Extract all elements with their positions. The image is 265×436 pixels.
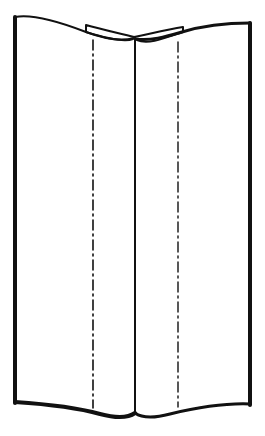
bottom-edge-right xyxy=(135,404,250,417)
bottom-edge-left xyxy=(15,402,135,417)
top-edge-right xyxy=(136,23,250,40)
open-book-drawing xyxy=(0,0,265,436)
top-edge-left xyxy=(15,16,134,40)
